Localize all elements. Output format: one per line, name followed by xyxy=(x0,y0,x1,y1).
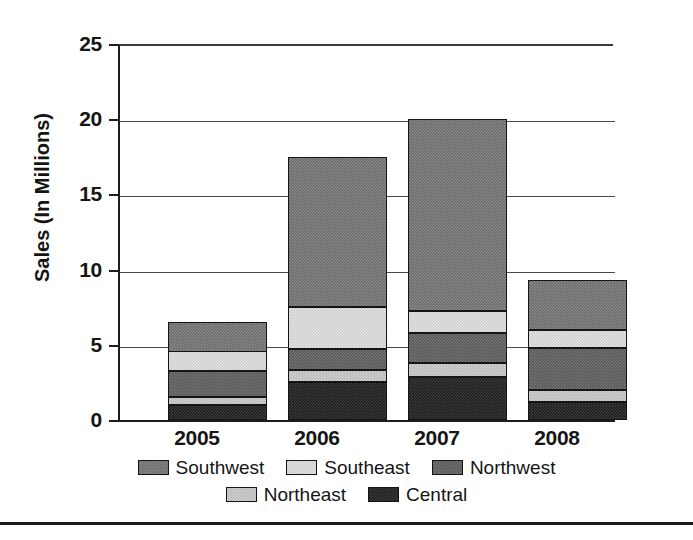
y-tick-label-10: 10 xyxy=(56,259,102,280)
bar-2006 xyxy=(288,157,387,420)
bar-segment-southeast-2005 xyxy=(168,351,267,371)
legend-label-northwest: Northwest xyxy=(470,458,556,477)
southeast-swatch-icon xyxy=(286,460,317,475)
legend-item-northeast[interactable]: Northeast xyxy=(226,485,346,504)
legend-label-northeast: Northeast xyxy=(264,485,346,504)
bar-segment-southeast-2007 xyxy=(408,311,507,333)
bar-2008 xyxy=(528,280,627,420)
bar-2005 xyxy=(168,322,267,420)
bar-segment-central-2008 xyxy=(528,402,627,420)
tick-mark-25 xyxy=(109,44,118,46)
x-tick-label-2007: 2007 xyxy=(381,425,493,450)
gridline-20 xyxy=(120,121,615,122)
bar-segment-northwest-2008 xyxy=(528,348,627,390)
plot-area xyxy=(118,44,613,420)
northeast-swatch-icon xyxy=(226,487,257,502)
tick-mark-5 xyxy=(109,345,118,347)
bar-segment-northeast-2005 xyxy=(168,397,267,405)
bar-segment-northwest-2005 xyxy=(168,371,267,397)
legend-item-southeast[interactable]: Southeast xyxy=(286,458,410,477)
bar-segment-southwest-2007 xyxy=(408,119,507,311)
southwest-swatch-icon xyxy=(138,460,169,475)
tick-mark-10 xyxy=(109,270,118,272)
legend-row-primary: Southwest Southeast Northwest xyxy=(0,458,693,477)
x-tick-label-2005: 2005 xyxy=(141,425,253,450)
bar-segment-southwest-2006 xyxy=(288,157,387,307)
legend-item-southwest[interactable]: Southwest xyxy=(138,458,265,477)
legend-item-northwest[interactable]: Northwest xyxy=(432,458,556,477)
northwest-swatch-icon xyxy=(432,460,463,475)
bar-segment-northwest-2006 xyxy=(288,349,387,370)
bar-segment-southeast-2006 xyxy=(288,307,387,349)
central-swatch-icon xyxy=(368,487,399,502)
bar-segment-northeast-2007 xyxy=(408,363,507,377)
y-axis-title: Sales (In Millions) xyxy=(31,38,54,358)
bar-segment-northwest-2007 xyxy=(408,333,507,363)
y-tick-label-15: 15 xyxy=(56,183,102,204)
x-tick-label-2006: 2006 xyxy=(261,425,373,450)
bar-segment-southwest-2005 xyxy=(168,322,267,352)
y-tick-label-25: 25 xyxy=(56,33,102,54)
bar-segment-southeast-2008 xyxy=(528,330,627,348)
y-tick-label-0: 0 xyxy=(56,409,102,430)
tick-mark-0 xyxy=(109,420,118,422)
tick-mark-20 xyxy=(109,119,118,121)
y-tick-label-20: 20 xyxy=(56,108,102,129)
bar-2007 xyxy=(408,119,507,420)
bar-segment-central-2006 xyxy=(288,382,387,420)
bar-segment-central-2005 xyxy=(168,405,267,420)
legend-label-southwest: Southwest xyxy=(176,458,265,477)
bar-segment-northeast-2008 xyxy=(528,390,627,402)
legend-label-southeast: Southeast xyxy=(324,458,410,477)
y-tick-label-5: 5 xyxy=(56,334,102,355)
legend-item-central[interactable]: Central xyxy=(368,485,467,504)
legend-label-central: Central xyxy=(406,485,467,504)
legend-row-secondary: Northeast Central xyxy=(0,485,693,504)
x-tick-label-2008: 2008 xyxy=(501,425,613,450)
bar-segment-southwest-2008 xyxy=(528,280,627,330)
bar-segment-northeast-2006 xyxy=(288,370,387,382)
stacked-bar-chart-figure: Sales (In Millions) 25 20 15 10 5 0 xyxy=(0,0,693,540)
bar-segment-central-2007 xyxy=(408,377,507,420)
page-footer-rule xyxy=(0,522,693,525)
x-axis-baseline xyxy=(118,420,615,422)
tick-mark-15 xyxy=(109,194,118,196)
